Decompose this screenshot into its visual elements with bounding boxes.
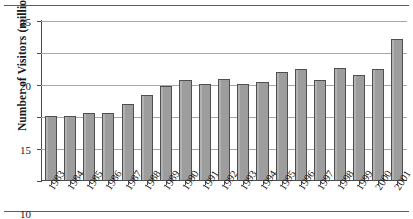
y-axis-line <box>41 20 42 182</box>
y-tick-mark: 25 <box>37 21 41 22</box>
bar <box>141 95 153 181</box>
y-tick-mark: 15 <box>37 85 41 86</box>
y-tick-label: 25 <box>20 16 31 28</box>
bar <box>353 75 365 181</box>
bar <box>160 86 172 181</box>
y-tick-label: 20 <box>20 80 31 92</box>
y-tick-mark: 5 <box>37 149 41 150</box>
bottom-divider-rule <box>4 211 409 212</box>
bar <box>218 79 230 181</box>
top-divider-rule <box>4 5 409 6</box>
y-tick-mark: 20 <box>37 53 41 54</box>
bar <box>276 72 288 181</box>
bar <box>372 69 384 181</box>
bar <box>314 80 326 181</box>
bar <box>122 104 134 181</box>
gridline <box>41 53 407 54</box>
bar-chart-figure: Number of Visitors (millions) 0510152025… <box>0 0 413 219</box>
gridline <box>41 21 407 22</box>
y-tick-mark: 10 <box>37 117 41 118</box>
bar <box>237 84 249 181</box>
bar <box>179 80 191 181</box>
y-tick-mark: 0 <box>37 181 41 182</box>
bar <box>334 68 346 181</box>
plot-area: 0510152025 <box>41 21 407 181</box>
y-tick-label: 10 <box>20 208 31 219</box>
bar <box>199 84 211 181</box>
bar <box>295 69 307 181</box>
y-tick-label: 15 <box>20 144 31 156</box>
bar <box>391 39 403 181</box>
bar <box>256 82 268 181</box>
